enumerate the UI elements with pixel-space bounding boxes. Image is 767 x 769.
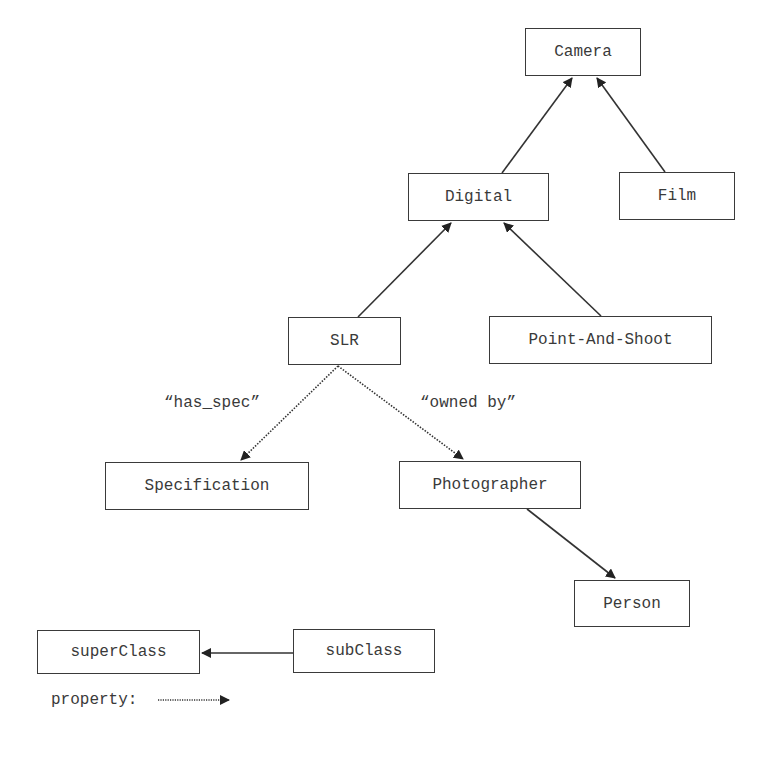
edge-digital-camera — [502, 78, 572, 173]
node-person-label: Person — [603, 595, 661, 613]
legend-subclass-label: subClass — [326, 642, 403, 660]
ontology-diagram: Camera Digital Film SLR Point-And-Shoot … — [0, 0, 767, 769]
edge-label-owned-by: “owned by” — [420, 393, 516, 413]
node-photographer-label: Photographer — [432, 476, 547, 494]
edge-slr-digital — [358, 223, 451, 317]
legend-superclass: superClass — [37, 630, 200, 674]
node-point-and-shoot-label: Point-And-Shoot — [528, 331, 672, 349]
node-slr: SLR — [288, 317, 401, 365]
legend-subclass: subClass — [293, 629, 435, 673]
legend-superclass-label: superClass — [70, 643, 166, 661]
edge-photographer-person — [527, 509, 615, 578]
node-person: Person — [574, 580, 690, 627]
edge-slr-specification — [241, 366, 338, 460]
node-photographer: Photographer — [399, 461, 581, 509]
node-camera: Camera — [525, 28, 641, 76]
node-film-label: Film — [658, 187, 696, 205]
node-film: Film — [619, 172, 735, 220]
legend-property-label: property: — [51, 690, 137, 710]
edge-film-camera — [597, 78, 665, 172]
node-slr-label: SLR — [330, 332, 359, 350]
node-point-and-shoot: Point-And-Shoot — [489, 316, 712, 364]
node-specification: Specification — [105, 462, 309, 510]
edge-pointandshoot-digital — [504, 223, 601, 316]
edge-label-has-spec: “has_spec” — [164, 393, 260, 413]
node-digital: Digital — [408, 173, 549, 221]
node-specification-label: Specification — [145, 477, 270, 495]
node-digital-label: Digital — [445, 188, 512, 206]
node-camera-label: Camera — [554, 43, 612, 61]
